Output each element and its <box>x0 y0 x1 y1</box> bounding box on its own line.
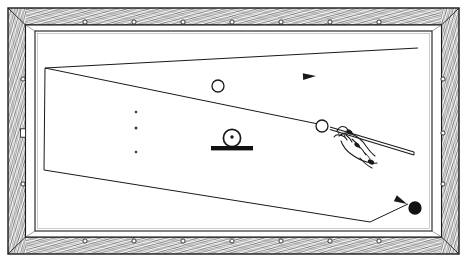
sight-marker-bottom-6 <box>377 239 381 243</box>
sight-marker-right-1 <box>441 131 445 135</box>
cloth-spot-1 <box>135 127 138 130</box>
cue-ball <box>316 120 328 132</box>
sight-marker-bottom-5 <box>328 239 332 243</box>
target-ball-black <box>409 202 421 214</box>
sight-marker-bottom-2 <box>181 239 185 243</box>
sight-marker-left-2 <box>21 182 25 186</box>
sight-marker-top-4 <box>279 20 283 24</box>
sight-marker-right-2 <box>441 182 445 186</box>
cloth-spot-0 <box>135 111 138 114</box>
sight-marker-top-6 <box>377 20 381 24</box>
object-ball <box>212 80 224 92</box>
legend-rail-bar <box>211 146 253 150</box>
sight-marker-top-2 <box>181 20 185 24</box>
sight-marker-top-1 <box>132 20 136 24</box>
sight-marker-top-5 <box>328 20 332 24</box>
cloth-spot-2 <box>135 151 138 154</box>
sight-marker-top-0 <box>83 20 87 24</box>
sight-marker-bottom-3 <box>230 239 234 243</box>
sight-marker-right-0 <box>441 77 445 81</box>
billiard-table-figure <box>0 0 467 262</box>
sight-marker-bottom-1 <box>132 239 136 243</box>
sight-marker-left-1 <box>20 129 25 137</box>
sight-marker-top-3 <box>230 20 234 24</box>
sight-marker-bottom-4 <box>279 239 283 243</box>
illustration-stage: Billiard table bank-shot diagram Line dr… <box>0 0 467 262</box>
sight-marker-left-0 <box>21 77 25 81</box>
sight-marker-bottom-0 <box>83 239 87 243</box>
legend-ball-center-dot <box>230 135 233 138</box>
